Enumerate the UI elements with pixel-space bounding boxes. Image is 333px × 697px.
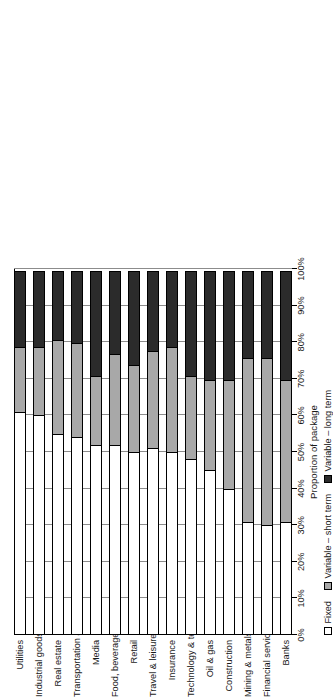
bar-row [128, 269, 140, 635]
legend-label: Variable – long term [323, 390, 333, 472]
bar-segment-fixed [223, 489, 235, 635]
category-label: Technology & telecommunications [185, 637, 197, 697]
category-label: Media [90, 637, 102, 697]
axis-tick-label: 30% [296, 516, 306, 534]
bar-segment-fixed [166, 452, 178, 635]
bar-segment-fixed [242, 522, 254, 635]
axis-tick-label: 20% [296, 553, 306, 571]
bar-row [14, 269, 26, 635]
bar-row [242, 269, 254, 635]
legend-item: Variable – long term [323, 390, 333, 483]
bar-segment-vlong [90, 271, 102, 377]
bar-row [109, 269, 121, 635]
bar-segment-vshort [90, 376, 102, 446]
bar-row [185, 269, 197, 635]
legend-item: Fixed [323, 601, 333, 635]
axis-title: Proportion of package [308, 269, 319, 635]
bar-row [90, 269, 102, 635]
category-label: Financial services [261, 637, 273, 697]
bar-segment-fixed [261, 525, 273, 635]
bar-segment-vshort [242, 358, 254, 523]
bar-segment-vshort [261, 358, 273, 526]
value-axis: 0%10%20%30%40%50%60%70%80%90%100% [292, 269, 308, 635]
axis-tick-label: 40% [296, 479, 306, 497]
category-label: Insurance [166, 637, 178, 697]
bar-segment-vlong [52, 271, 64, 341]
category-label: Retail [128, 637, 140, 697]
bar-segment-vlong [204, 271, 216, 381]
axis-tick-label: 70% [296, 370, 306, 388]
bar-series-group [14, 269, 292, 635]
category-label: Industrial goods & services [33, 637, 45, 697]
bar-segment-vshort [280, 380, 292, 523]
category-label: Utilities [14, 637, 26, 697]
axis-tick-label: 100% [296, 257, 306, 281]
category-label: Construction [223, 637, 235, 697]
bar-segment-vlong [147, 271, 159, 352]
bar-segment-vshort [204, 380, 216, 472]
bar-row [52, 269, 64, 635]
plot-area [14, 269, 292, 635]
bar-row [71, 269, 83, 635]
bar-segment-fixed [52, 434, 64, 635]
axis-tick-label: 90% [296, 296, 306, 314]
bar-segment-vlong [280, 271, 292, 381]
bar-segment-vshort [109, 354, 121, 446]
legend-label: Variable – short term [323, 494, 333, 579]
axis-tick-label: 50% [296, 443, 306, 461]
bar-segment-vlong [71, 271, 83, 344]
bar-segment-vlong [109, 271, 121, 355]
bar-segment-fixed [33, 415, 45, 635]
category-label: Banks [280, 637, 292, 697]
legend-swatch-fixed-icon [324, 627, 332, 635]
bar-segment-fixed [109, 445, 121, 635]
bar-segment-fixed [147, 448, 159, 635]
bar-row [204, 269, 216, 635]
bar-segment-vlong [128, 271, 140, 366]
legend-swatch-vshort-icon [324, 582, 332, 590]
bar-segment-vlong [33, 271, 45, 348]
bar-segment-fixed [280, 522, 292, 635]
axis-tick-label: 10% [296, 589, 306, 607]
bar-segment-vlong [223, 271, 235, 381]
bar-segment-fixed [71, 437, 83, 635]
bar-segment-vshort [14, 347, 26, 413]
legend-swatch-vlong-icon [324, 475, 332, 483]
axis-tick-label: 60% [296, 406, 306, 424]
bar-row [223, 269, 235, 635]
bar-row [261, 269, 273, 635]
category-label: Food, beverages & household goods [109, 637, 121, 697]
category-label: Oil & gas [204, 637, 216, 697]
bar-segment-fixed [185, 459, 197, 635]
bar-segment-vlong [261, 271, 273, 359]
bar-segment-vlong [166, 271, 178, 348]
axis-tick-label: 0% [296, 628, 306, 641]
chart-legend: FixedVariable – short termVariable – lon… [323, 215, 333, 635]
bar-segment-vshort [33, 347, 45, 417]
category-label: Transportation & business services [71, 637, 83, 697]
bar-segment-vshort [223, 380, 235, 490]
category-axis: UtilitiesIndustrial goods & servicesReal… [14, 637, 292, 697]
bar-segment-vshort [71, 343, 83, 438]
bar-row [166, 269, 178, 635]
legend-label: Fixed [323, 601, 333, 623]
bar-segment-vshort [185, 376, 197, 460]
category-label: Real estate [52, 637, 64, 697]
bar-segment-fixed [14, 412, 26, 635]
bar-segment-vshort [128, 365, 140, 453]
bar-segment-fixed [128, 452, 140, 635]
bar-segment-vlong [14, 271, 26, 348]
bar-segment-vshort [52, 340, 64, 435]
axis-tick-label: 80% [296, 333, 306, 351]
bar-row [280, 269, 292, 635]
bar-segment-vshort [166, 347, 178, 453]
bar-segment-vlong [185, 271, 197, 377]
category-label: Mining & metals [242, 637, 254, 697]
bar-row [147, 269, 159, 635]
category-label: Travel & leisure [147, 637, 159, 697]
bar-row [33, 269, 45, 635]
bar-segment-vlong [242, 271, 254, 359]
bar-segment-fixed [204, 470, 216, 635]
